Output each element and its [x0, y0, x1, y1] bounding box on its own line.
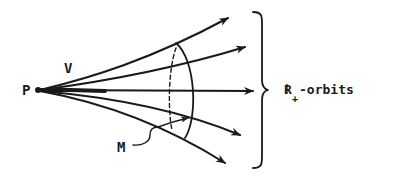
section-back-arc — [169, 48, 176, 130]
orbit-arrow-1 — [40, 18, 228, 90]
point-p-dot — [35, 87, 41, 93]
label-orbits-subscript: + — [292, 93, 298, 104]
label-section-m: M — [117, 139, 125, 155]
orbit-arrow-3 — [40, 90, 253, 91]
section-leader-line — [133, 127, 158, 145]
label-orbits-suffix: -orbits — [299, 82, 354, 97]
section-pointer-arrow — [158, 118, 188, 127]
label-orbits: R + -orbits — [284, 82, 354, 104]
orbit-cone-diagram: P V M R + -orbits — [0, 0, 396, 180]
label-point-p: P — [22, 82, 30, 98]
label-orbits-r: R — [284, 82, 292, 97]
orbits-brace — [253, 12, 268, 168]
label-cone-v: V — [64, 60, 73, 76]
orbit-arrow-5 — [40, 91, 225, 163]
